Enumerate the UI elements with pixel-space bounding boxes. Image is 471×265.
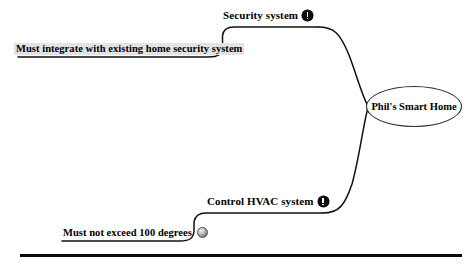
branch-label-security-text: Security system [223,10,298,21]
branch-label-hvac-text: Control HVAC system [207,196,314,207]
central-node-label: Phil's Smart Home [371,101,456,112]
connector-security-to-center [318,27,368,106]
leaf-label-hvac-requirement-text: Must not exceed 100 degrees [62,227,193,239]
exclamation-icon [302,10,313,21]
leaf-label-security-requirement[interactable]: Must integrate with existing home securi… [14,43,244,55]
connector-hvac-to-center [323,108,368,213]
branch-label-hvac[interactable]: Control HVAC system [207,196,329,207]
sphere-icon [197,227,208,238]
branch-label-security[interactable]: Security system [223,10,313,21]
footer-divider [20,254,462,257]
leaf-label-security-requirement-text: Must integrate with existing home securi… [14,43,244,55]
central-node-phils-smart-home[interactable]: Phil's Smart Home [366,86,462,127]
connector-lines [0,0,471,265]
exclamation-icon [318,196,329,207]
leaf-label-hvac-requirement[interactable]: Must not exceed 100 degrees [62,227,208,239]
mindmap-canvas: Security system Must integrate with exis… [0,0,471,265]
